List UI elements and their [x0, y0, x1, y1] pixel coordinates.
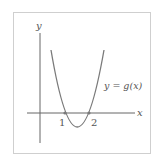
y-axis-label: y — [35, 20, 42, 31]
tick-label-1: 1 — [59, 117, 65, 128]
parabola-curve — [51, 50, 104, 127]
curve-label: y = g(x) — [103, 80, 143, 91]
function-graph: y x 1 2 y = g(x) — [0, 0, 162, 161]
x-axis-label: x — [137, 107, 143, 118]
tick-label-2: 2 — [91, 117, 97, 128]
root-point-2 — [87, 111, 90, 114]
root-point-1 — [63, 111, 66, 114]
